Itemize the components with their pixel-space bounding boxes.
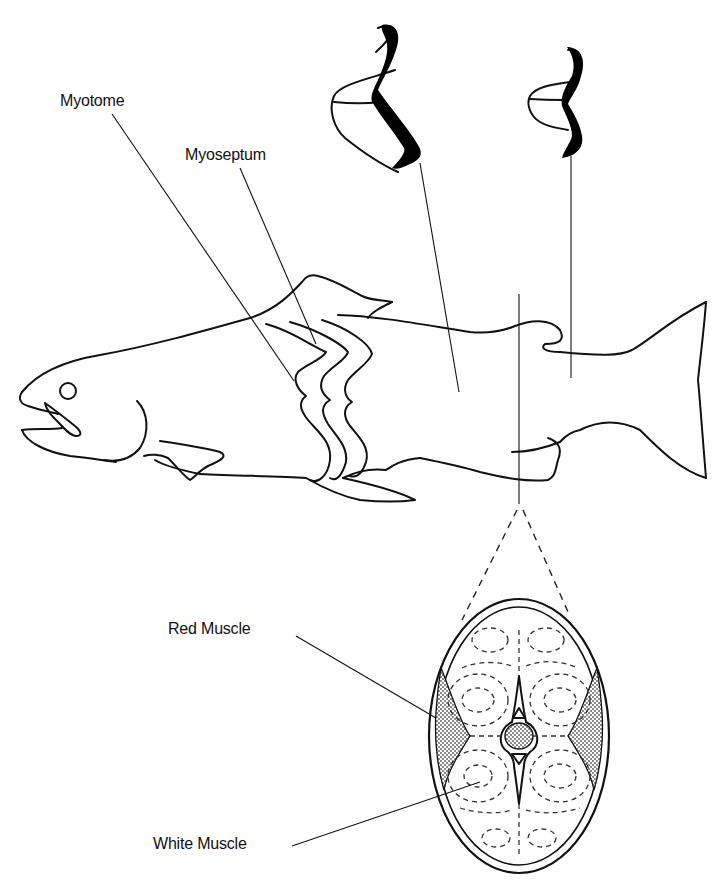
- white-muscle-leader-line: [292, 782, 480, 846]
- leader-line-cone-large: [420, 163, 459, 392]
- red-muscle-leader-line: [296, 636, 436, 718]
- myotome-cone-small: [528, 47, 582, 158]
- projection-line-left: [462, 510, 517, 620]
- red-muscle-right: [568, 668, 603, 790]
- projection-line-right: [523, 510, 568, 612]
- label-red-muscle: Red Muscle: [168, 620, 250, 638]
- label-myotome: Myotome: [60, 92, 124, 110]
- cross-section: [429, 599, 609, 873]
- label-white-muscle: White Muscle: [153, 835, 247, 853]
- fish-muscle-diagram: [0, 0, 722, 884]
- myotome-cone-large: [332, 25, 421, 172]
- label-myoseptum: Myoseptum: [185, 146, 266, 164]
- myoseptum-zigzags: [266, 320, 372, 481]
